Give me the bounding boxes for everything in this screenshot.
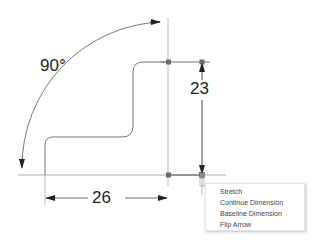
sketch-profile[interactable] xyxy=(45,62,168,175)
width-dimension-text[interactable]: 26 xyxy=(92,188,111,208)
angle-dimension-arc[interactable] xyxy=(22,22,160,168)
grip-top-left[interactable] xyxy=(166,60,171,65)
grip-bottom-left[interactable] xyxy=(166,173,171,178)
height-dimension-text[interactable]: 23 xyxy=(190,80,209,98)
menu-item-continue-dimension[interactable]: Continue Dimension xyxy=(206,197,304,208)
grip-context-menu: Stretch Continue Dimension Baseline Dime… xyxy=(205,183,305,231)
menu-item-flip-arrow[interactable]: Flip Arrow xyxy=(206,219,304,230)
grip-top-right[interactable] xyxy=(200,60,205,65)
grip-bottom-right[interactable] xyxy=(200,173,205,178)
menu-item-baseline-dimension[interactable]: Baseline Dimension xyxy=(206,208,304,219)
menu-item-stretch[interactable]: Stretch xyxy=(206,186,304,197)
angle-dimension-text[interactable]: 90° xyxy=(40,56,66,76)
